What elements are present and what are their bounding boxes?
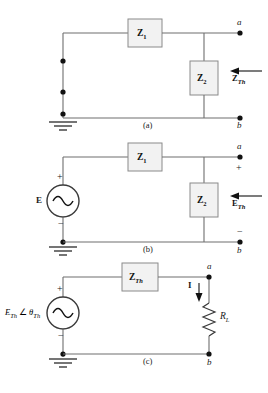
terminal-dot-b	[237, 239, 242, 244]
ground-symbol	[49, 247, 77, 255]
impedance-z2-label-a: Z2	[197, 73, 207, 85]
node-b-label-panel-a: b	[237, 121, 242, 130]
impedance-z2-label-b: Z2	[197, 195, 207, 207]
z-thevenin-label-a: ZTh	[232, 73, 245, 85]
e-thevenin-label-b: ETh	[232, 198, 245, 210]
node-a-label-panel-b: a	[237, 142, 242, 151]
source-minus-sign-b: −	[58, 219, 64, 229]
impedance-z1-label-a: Z1	[137, 28, 147, 40]
source-plus-sign-c: +	[57, 284, 63, 294]
terminal-dot-a	[206, 274, 211, 279]
panel-a-circuit	[49, 19, 262, 130]
source-phasor-label-c: ETh∠θTh	[5, 307, 40, 319]
source-plus-sign-b: +	[57, 172, 63, 182]
circuit-figure: .w{stroke:#6e6e6e;stroke-width:1.1;fill:…	[0, 0, 268, 393]
source-minus-sign-c: −	[58, 331, 64, 341]
load-resistor-label-c: RL	[220, 312, 229, 323]
junction-dot	[60, 58, 65, 63]
panel-b-circuit	[47, 143, 262, 255]
terminal-minus-sign-b: −	[237, 227, 243, 237]
impedance-z1-label-b: Z1	[137, 152, 147, 164]
terminal-dot-a	[237, 154, 242, 159]
node-a-label-panel-c: a	[207, 262, 212, 271]
zigzag-resistor-c	[203, 303, 215, 336]
terminal-plus-sign-b: +	[236, 163, 242, 173]
terminal-dot-a	[237, 30, 242, 35]
node-a-label-panel-a: a	[237, 18, 242, 27]
panel-caption-c: (c)	[143, 357, 152, 366]
panel-caption-b: (b)	[143, 245, 153, 254]
node-b-label-panel-b: b	[237, 246, 242, 255]
junction-dot	[60, 89, 65, 94]
panel-caption-a: (a)	[143, 121, 152, 130]
node-b-label-panel-c: b	[207, 358, 212, 367]
ground-symbol	[49, 359, 77, 367]
ground-symbol	[49, 122, 77, 130]
junction-dot	[60, 111, 65, 116]
terminal-dot-b	[206, 351, 211, 356]
down-arrow-icon	[196, 283, 203, 302]
impedance-zth-label-c: ZTh	[129, 272, 143, 284]
source-label-b: E	[36, 196, 42, 205]
current-label-c: I	[188, 281, 192, 290]
